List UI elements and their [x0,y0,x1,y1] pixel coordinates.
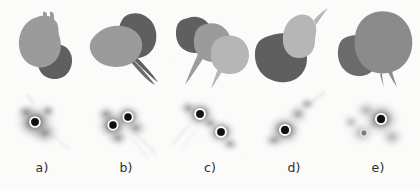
panel-c-segmentation [168,0,252,92]
panel-a-density-map [0,92,84,160]
panel-label-d: d) [252,160,336,175]
panel-a-segmentation [0,0,84,92]
panel-label-e: e) [336,160,420,175]
panel-b-density-map [84,92,168,160]
panel-a: a) [0,0,84,189]
marker-a-1 [30,117,40,127]
panel-d-segmentation [252,0,336,92]
panel-e-segmentation [336,0,420,92]
panel-c-density-map [168,92,252,160]
panel-b: b) [84,0,168,189]
panel-c: c) [168,0,252,189]
panel-e: e) [336,0,420,189]
marker-c-2 [216,127,226,137]
blob-light-c [211,35,249,89]
blob-mid-e [355,11,413,88]
blob-mid-a [19,12,61,68]
panel-label-c: c) [168,160,252,175]
marker-c-1 [195,109,205,119]
marker-d-1 [280,125,290,135]
blob-light-d [283,8,328,58]
figure-root: a) [0,0,420,189]
panel-b-segmentation [84,0,168,92]
panel-d-density-map [252,92,336,160]
panel-label-b: b) [84,160,168,175]
marker-b-2 [123,112,133,122]
panel-label-a: a) [0,160,84,175]
marker-b-1 [108,120,118,130]
panel-d: d) [252,0,336,189]
marker-e-1 [376,114,386,124]
blob-mid-b [90,26,142,67]
panel-e-density-map [336,92,420,160]
